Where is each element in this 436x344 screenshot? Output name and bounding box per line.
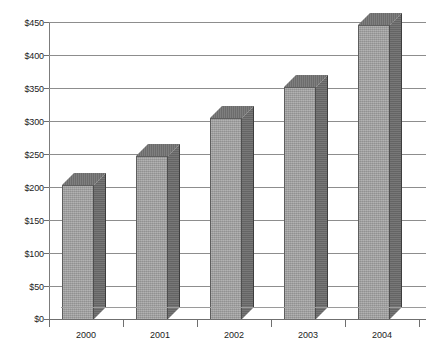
bar-2003 [284, 12, 328, 319]
bar-2000-front-face [62, 185, 94, 319]
y-axis-label: $150 [0, 216, 44, 226]
bar-2002-front-face [210, 118, 242, 319]
bar-2001-front-face [136, 156, 168, 319]
bar-2003-front-face [284, 87, 316, 319]
y-axis-label: $300 [0, 117, 44, 127]
y-axis-label: $200 [0, 183, 44, 193]
bar-2000 [62, 12, 106, 319]
x-axis-tick [271, 320, 272, 327]
bar-chart: $450 $400 $350 $300 $250 $200 $150 $100 … [0, 0, 436, 344]
bar-2001 [136, 12, 180, 319]
y-axis-label: $250 [0, 150, 44, 160]
y-axis-label: $100 [0, 249, 44, 259]
x-axis-tick [419, 320, 420, 327]
x-axis-label-2000: 2000 [56, 330, 116, 340]
bar-2004-side-face [390, 13, 402, 319]
bar-2002 [210, 12, 254, 319]
bar-2004-front-face [358, 25, 390, 319]
y-axis-label: $50 [0, 282, 44, 292]
x-axis-line-back [61, 307, 426, 308]
x-axis-label-2003: 2003 [278, 330, 338, 340]
bar-2001-side-face [168, 144, 180, 319]
bar-2002-side-face [242, 106, 254, 319]
x-axis-tick [49, 320, 50, 327]
x-axis-tick [345, 320, 346, 327]
x-axis-label-2001: 2001 [130, 330, 190, 340]
bar-2004 [358, 12, 402, 319]
x-axis-label-2004: 2004 [352, 330, 412, 340]
x-axis-line [49, 319, 426, 320]
y-axis-label: $350 [0, 84, 44, 94]
plot-area [49, 12, 426, 320]
x-axis-tick [197, 320, 198, 327]
bar-2000-side-face [94, 173, 106, 319]
y-axis-label: $400 [0, 51, 44, 61]
y-axis-label: $0 [0, 314, 44, 324]
bar-2003-side-face [316, 75, 328, 319]
x-axis-tick [123, 320, 124, 327]
x-axis-label-2002: 2002 [204, 330, 264, 340]
y-axis-label: $450 [0, 18, 44, 28]
